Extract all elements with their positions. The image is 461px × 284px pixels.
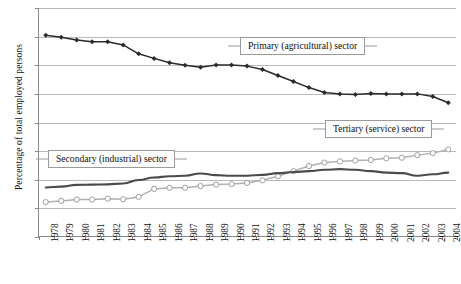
grid-line [39,8,456,9]
grid-line [39,180,456,181]
y-tick-mark [35,8,39,9]
x-tick-label: 1986 [174,223,184,242]
x-tick-mark [39,236,40,240]
x-tick-label: 1999 [375,223,385,242]
x-tick-label: 1996 [328,223,338,242]
x-tick-label: 1978 [50,223,60,242]
x-tick-label: 2000 [390,223,400,242]
x-tick-label: 2004 [452,223,461,242]
x-tick-label: 1992 [266,223,276,242]
x-tick-label: 1993 [282,223,292,242]
y-tick-mark [35,123,39,124]
x-tick-label: 1985 [158,223,168,242]
x-tick-label: 2001 [406,223,416,242]
x-tick-label: 1979 [65,223,75,242]
x-tick-label: 1987 [189,223,199,242]
x-tick-label: 1983 [127,223,137,242]
x-tick-label: 1982 [112,223,122,242]
legend-label-primary: Primary (agricultural) sector [240,37,365,55]
x-tick-label: 1990 [236,223,246,242]
x-tick-label: 1984 [143,223,153,242]
x-tick-label: 1981 [96,223,106,242]
x-tick-label: 1980 [81,223,91,242]
grid-line [39,208,456,209]
x-tick-label: 1998 [359,223,369,242]
x-tick-label: 2002 [421,223,431,242]
y-tick-mark [35,180,39,181]
x-tick-label: 1994 [297,223,307,242]
legend-label-secondary: Secondary (industrial) sector [48,150,175,168]
x-tick-label: 1991 [251,223,261,242]
legend-label-tertiary: Tertiary (service) sector [325,120,432,138]
y-tick-mark [35,37,39,38]
grid-line [39,94,456,95]
x-tick-label: 1989 [220,223,230,242]
x-tick-label: 1988 [205,223,215,242]
line-chart: Percentage of total employed persons 010… [0,0,461,284]
y-tick-mark [35,151,39,152]
x-tick-label: 2003 [437,223,447,242]
y-tick-mark [35,208,39,209]
x-tick-label: 1997 [344,223,354,242]
y-tick-mark [35,94,39,95]
y-tick-mark [35,65,39,66]
x-tick-label: 1995 [313,223,323,242]
y-axis-title: Percentage of total employed persons [14,2,24,232]
grid-line [39,65,456,66]
